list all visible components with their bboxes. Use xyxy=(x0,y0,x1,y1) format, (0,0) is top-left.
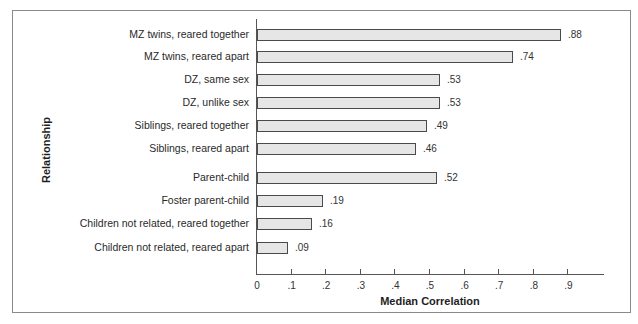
x-tick-label: .7 xyxy=(495,280,503,291)
category-label: Siblings, reared apart xyxy=(149,142,249,154)
value-label: .09 xyxy=(295,242,309,253)
value-label: .46 xyxy=(423,143,437,154)
x-tick xyxy=(360,269,361,274)
value-label: .52 xyxy=(444,172,458,183)
value-label: .16 xyxy=(319,218,333,229)
value-label: .53 xyxy=(447,97,461,108)
category-label: Siblings, reared together xyxy=(135,119,249,131)
bar-row: DZ, same sex.53 xyxy=(0,74,638,87)
x-tick-label: .3 xyxy=(357,280,365,291)
x-tick xyxy=(325,269,326,274)
category-label: MZ twins, reared apart xyxy=(144,50,249,62)
bar xyxy=(257,51,513,63)
bar xyxy=(257,143,416,155)
bar xyxy=(257,97,440,109)
x-tick-label: .5 xyxy=(426,280,434,291)
bar xyxy=(257,120,427,132)
value-label: .74 xyxy=(520,51,534,62)
bar-row: DZ, unlike sex.53 xyxy=(0,97,638,110)
bar xyxy=(257,172,437,184)
x-tick xyxy=(533,269,534,274)
category-label: Children not related, reared together xyxy=(80,217,249,229)
bar-row: Parent-child.52 xyxy=(0,172,638,185)
bar-row: Children not related, reared together.16 xyxy=(0,218,638,231)
x-tick-label: .2 xyxy=(322,280,330,291)
x-tick-label: .9 xyxy=(564,280,572,291)
x-axis-label: Median Correlation xyxy=(380,295,480,307)
value-label: .88 xyxy=(568,29,582,40)
value-label: .19 xyxy=(330,195,344,206)
category-label: DZ, same sex xyxy=(184,73,249,85)
x-tick xyxy=(394,269,395,274)
bar-row: Siblings, reared apart.46 xyxy=(0,143,638,156)
category-label: Parent-child xyxy=(193,171,249,183)
category-label: Foster parent-child xyxy=(161,194,249,206)
bar xyxy=(257,74,440,86)
bar-row: MZ twins, reared together.88 xyxy=(0,29,638,42)
bar xyxy=(257,218,312,230)
category-label: DZ, unlike sex xyxy=(182,96,249,108)
x-tick-label: .6 xyxy=(460,280,468,291)
x-tick-label: .8 xyxy=(530,280,538,291)
x-tick-label: 0 xyxy=(254,280,260,291)
x-tick xyxy=(464,269,465,274)
bar-row: Siblings, reared together.49 xyxy=(0,120,638,133)
category-label: Children not related, reared apart xyxy=(94,241,249,253)
x-tick xyxy=(291,269,292,274)
x-tick xyxy=(498,269,499,274)
x-tick xyxy=(429,269,430,274)
x-axis-line xyxy=(256,274,604,275)
value-label: .49 xyxy=(434,120,448,131)
bar-row: Foster parent-child.19 xyxy=(0,195,638,208)
bar xyxy=(257,29,561,41)
x-tick-label: .4 xyxy=(391,280,399,291)
bar xyxy=(257,242,288,254)
bar-row: MZ twins, reared apart.74 xyxy=(0,51,638,64)
bar xyxy=(257,195,323,207)
category-label: MZ twins, reared together xyxy=(129,28,249,40)
x-tick xyxy=(567,269,568,274)
value-label: .53 xyxy=(447,74,461,85)
x-tick-label: .1 xyxy=(287,280,295,291)
bar-row: Children not related, reared apart.09 xyxy=(0,242,638,255)
